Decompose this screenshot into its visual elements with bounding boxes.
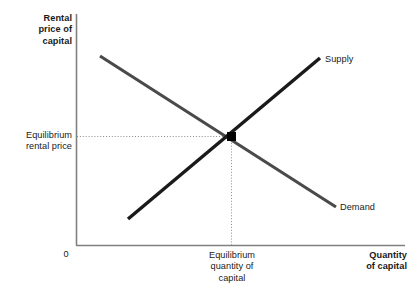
equilibrium-price-label: Equilibrium rental price <box>0 130 72 153</box>
supply-demand-figure: Rental price of capital Equilibrium rent… <box>0 0 413 296</box>
supply-curve-label: Supply <box>325 54 385 65</box>
equilibrium-point-marker <box>227 132 236 141</box>
x-axis-title: Quantity of capital <box>329 250 407 273</box>
origin-label: 0 <box>60 249 72 260</box>
demand-curve <box>100 56 336 207</box>
demand-curve-label: Demand <box>340 202 400 213</box>
supply-curve <box>128 58 320 219</box>
y-axis-title: Rental price of capital <box>8 13 72 47</box>
equilibrium-quantity-label: Equilibrium quantity of capital <box>182 250 282 284</box>
